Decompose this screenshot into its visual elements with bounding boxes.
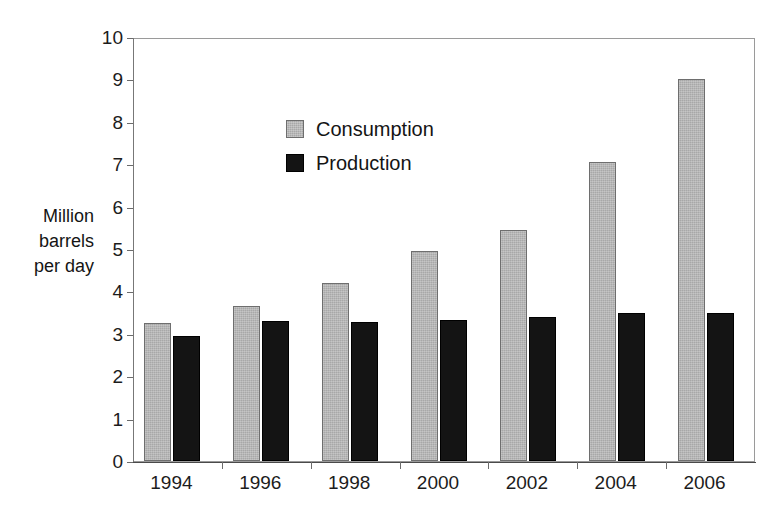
bar-consumption-1998: [322, 283, 349, 461]
y-axis-tick-label: 9: [95, 70, 123, 89]
bar-consumption-2004: [589, 162, 616, 461]
bar-production-1998: [351, 322, 378, 461]
bar-production-2004: [618, 313, 645, 461]
y-axis-tick-label: 6: [95, 198, 123, 217]
y-axis-tick-label: 3: [95, 325, 123, 344]
bar-production-1996: [262, 321, 289, 461]
y-axis-title: Million barrels per day: [16, 204, 94, 279]
y-axis-line: [133, 38, 134, 463]
y-axis-tick-label: 2: [95, 367, 123, 386]
x-axis-tick-mark: [311, 462, 312, 469]
y-axis-title-line-3: per day: [16, 254, 94, 279]
bar-production-2006: [707, 313, 734, 461]
legend-swatch-consumption-icon: [286, 120, 304, 138]
x-axis-line: [133, 462, 756, 463]
x-axis-tick-label: 1998: [305, 472, 393, 494]
legend-label-consumption: Consumption: [316, 118, 434, 140]
y-axis-tick-label: 7: [95, 155, 123, 174]
legend-item-consumption: Consumption: [286, 112, 434, 146]
x-axis-tick-mark: [400, 462, 401, 469]
x-axis-tick-mark: [222, 462, 223, 469]
y-axis-tick-label: 1: [95, 410, 123, 429]
y-axis-tick-label: 8: [95, 113, 123, 132]
bar-consumption-2006: [678, 79, 705, 461]
y-axis-tick-label: 0: [95, 452, 123, 471]
bar-chart: Million barrels per day 109876543210 Con…: [0, 0, 773, 528]
bar-consumption-1996: [233, 306, 260, 461]
y-axis-tick-label: 10: [95, 28, 123, 47]
y-axis-tick-label: 5: [95, 240, 123, 259]
y-axis-title-line-1: Million: [16, 204, 94, 229]
x-axis-tick-label: 2006: [661, 472, 749, 494]
bar-consumption-2002: [500, 230, 527, 461]
x-axis-tick-mark: [666, 462, 667, 469]
x-axis-tick-label: 2000: [394, 472, 482, 494]
bar-production-2000: [440, 320, 467, 461]
y-axis-title-line-2: barrels: [16, 229, 94, 254]
x-axis-tick-label: 2004: [572, 472, 660, 494]
bar-production-2002: [529, 317, 556, 461]
y-axis-tick-label: 4: [95, 282, 123, 301]
legend-item-production: Production: [286, 146, 434, 180]
plot-area: Consumption Production: [133, 38, 755, 462]
bar-consumption-2000: [411, 251, 438, 461]
chart-legend: Consumption Production: [286, 112, 434, 180]
bar-consumption-1994: [144, 323, 171, 461]
bar-production-1994: [173, 336, 200, 461]
x-axis-tick-mark: [577, 462, 578, 469]
legend-label-production: Production: [316, 152, 412, 174]
legend-swatch-production-icon: [286, 154, 304, 172]
x-axis-tick-label: 1994: [127, 472, 215, 494]
x-axis-tick-label: 1996: [216, 472, 304, 494]
x-axis-tick-mark: [488, 462, 489, 469]
x-axis-tick-label: 2002: [483, 472, 571, 494]
